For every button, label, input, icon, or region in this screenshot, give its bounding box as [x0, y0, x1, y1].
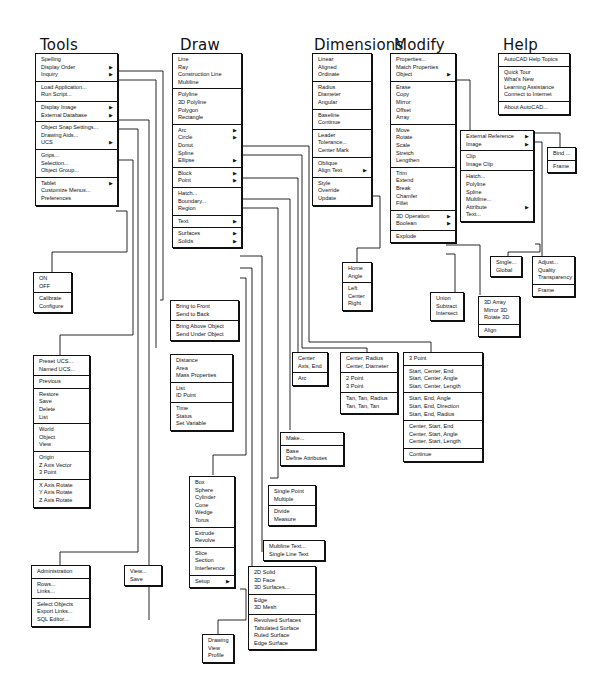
menu-item-set-variable[interactable]: Set Variable	[176, 420, 228, 428]
menu-item-global[interactable]: Global	[496, 267, 517, 275]
menu-item-circle[interactable]: Circle▶	[178, 134, 237, 142]
menu-item-union[interactable]: Union	[436, 295, 459, 303]
menu-item-move[interactable]: Move	[396, 127, 451, 135]
menu-item-explode[interactable]: Explode	[396, 233, 451, 241]
menu-item-revolve[interactable]: Revolve	[195, 537, 230, 545]
menu-item-tan-tan-tan[interactable]: Tan, Tan, Tan	[346, 403, 393, 411]
menu-item-base[interactable]: Base	[286, 448, 339, 456]
menu-item-clip[interactable]: Clip	[466, 153, 529, 161]
menu-item-customize-menus[interactable]: Customize Menus...	[41, 187, 113, 195]
menu-item-section[interactable]: Section	[195, 557, 230, 565]
menu-item-3-point[interactable]: 3 Point	[39, 469, 85, 477]
menu-item-administration[interactable]: Administration	[37, 568, 85, 576]
menu-item-delete[interactable]: Delete	[39, 406, 85, 414]
menu-item-object[interactable]: Object▶	[396, 71, 451, 79]
menu-item-view[interactable]: View...	[130, 568, 157, 576]
menu-item-polygon[interactable]: Polygon	[178, 107, 237, 115]
menu-item-transparency[interactable]: Transparency	[538, 274, 570, 282]
menu-item-time[interactable]: Time	[176, 405, 228, 413]
menu-item-polyline[interactable]: Polyline	[466, 181, 529, 189]
menu-item-block[interactable]: Block▶	[178, 170, 237, 178]
menu-item-diameter[interactable]: Diameter	[318, 91, 367, 99]
menu-item-linear[interactable]: Linear	[318, 56, 367, 64]
menu-item-text[interactable]: Text...	[466, 211, 529, 219]
menu-item-view[interactable]: View	[208, 645, 229, 653]
menu-item-3d-operation[interactable]: 3D Operation▶	[396, 213, 451, 221]
menu-item-radius[interactable]: Radius	[318, 84, 367, 92]
menu-item-left[interactable]: Left	[348, 285, 367, 293]
menu-item-define-attributes[interactable]: Define Attributes	[286, 455, 339, 463]
menu-item-boundary[interactable]: Boundary...	[178, 198, 237, 206]
menu-item-object-group[interactable]: Object Group...	[41, 167, 113, 175]
menu-item-what-s-new[interactable]: What's New	[504, 76, 565, 84]
menu-item-3d-array[interactable]: 3D Array	[484, 299, 515, 307]
menu-item-start-center-length[interactable]: Start, Center, Length	[409, 383, 478, 391]
menu-item-center-radius[interactable]: Center, Radius	[346, 355, 393, 363]
menu-item-z-axis-rotate[interactable]: Z Axis Rotate	[39, 497, 85, 505]
menu-item-configure[interactable]: Configure	[39, 303, 67, 311]
menu-item-rotate[interactable]: Rotate	[396, 134, 451, 142]
menu-item-restore[interactable]: Restore	[39, 391, 85, 399]
menu-item-cone[interactable]: Cone	[195, 502, 230, 510]
menu-item-center[interactable]: Center	[298, 355, 323, 363]
menu-item-ucs[interactable]: UCS▶	[41, 139, 113, 147]
menu-item-3-point[interactable]: 3 Point	[409, 355, 478, 363]
menu-item-center-mark[interactable]: Center Mark	[318, 147, 367, 155]
menu-item-subtract[interactable]: Subtract	[436, 303, 459, 311]
menu-item-scale[interactable]: Scale	[396, 142, 451, 150]
menu-item-erase[interactable]: Erase	[396, 84, 451, 92]
menu-item-continue[interactable]: Continue	[409, 451, 478, 459]
menu-item-tan-tan-radius[interactable]: Tan, Tan, Radius	[346, 395, 393, 403]
menu-item-single-point[interactable]: Single Point	[274, 488, 311, 496]
menu-item-adjust[interactable]: Adjust...	[538, 259, 570, 267]
menu-item-construction-line[interactable]: Construction Line	[178, 71, 237, 79]
menu-item-properties[interactable]: Properties...	[396, 56, 451, 64]
menu-item-polyline[interactable]: Polyline	[178, 91, 237, 99]
menu-item-quick-tour[interactable]: Quick Tour	[504, 69, 565, 77]
menu-item-measure[interactable]: Measure	[274, 516, 311, 524]
menu-item-object[interactable]: Object	[39, 434, 85, 442]
menu-item-arc[interactable]: Arc▶	[178, 127, 237, 135]
menu-item-select-objects[interactable]: Select Objects	[37, 601, 85, 609]
menu-item-external-reference[interactable]: External Reference▶	[466, 133, 529, 141]
menu-item-edge[interactable]: Edge	[254, 597, 311, 605]
menu-item-preset-ucs[interactable]: Preset UCS...	[39, 358, 85, 366]
menu-item-attribute[interactable]: Attribute▶	[466, 204, 529, 212]
menu-item-copy[interactable]: Copy	[396, 91, 451, 99]
tools-menu-header[interactable]: Tools	[40, 36, 78, 54]
menu-item-named-ucs[interactable]: Named UCS...	[39, 366, 85, 374]
menu-item-fillet[interactable]: Fillet	[396, 200, 451, 208]
menu-item-chamfer[interactable]: Chamfer	[396, 193, 451, 201]
menu-item-send-under-object[interactable]: Send Under Object	[176, 331, 234, 339]
menu-item-y-axis-rotate[interactable]: Y Axis Rotate	[39, 489, 85, 497]
menu-item-save[interactable]: Save	[39, 398, 85, 406]
menu-item-on[interactable]: ON	[39, 275, 67, 283]
menu-item-3-point[interactable]: 3 Point	[346, 383, 393, 391]
menu-item-leader[interactable]: Leader	[318, 132, 367, 140]
menu-item-inquiry[interactable]: Inquiry▶	[41, 71, 113, 79]
menu-item-preferences[interactable]: Preferences	[41, 195, 113, 203]
menu-item-intersect[interactable]: Intersect	[436, 310, 459, 318]
menu-item-world[interactable]: World	[39, 426, 85, 434]
menu-item-display-image[interactable]: Display Image▶	[41, 104, 113, 112]
menu-item-line[interactable]: Line	[178, 56, 237, 64]
menu-item-revolved-surfaces[interactable]: Revolved Surfaces	[254, 617, 311, 625]
menu-item-break[interactable]: Break	[396, 185, 451, 193]
menu-item-stretch[interactable]: Stretch	[396, 150, 451, 158]
menu-item-3d-mesh[interactable]: 3D Mesh	[254, 604, 311, 612]
menu-item-quality[interactable]: Quality	[538, 267, 570, 275]
menu-item-save[interactable]: Save	[130, 576, 157, 584]
menu-item-selection[interactable]: Selection...	[41, 160, 113, 168]
menu-item-object-snap-settings[interactable]: Object Snap Settings...	[41, 124, 113, 132]
menu-item-2d-solid[interactable]: 2D Solid	[254, 569, 311, 577]
menu-item-z-axis-vector[interactable]: Z Axis Vector	[39, 462, 85, 470]
menu-item-interference[interactable]: Interference	[195, 565, 230, 573]
menu-item-trim[interactable]: Trim	[396, 170, 451, 178]
menu-item-spline[interactable]: Spline	[466, 189, 529, 197]
menu-item-text[interactable]: Text▶	[178, 218, 237, 226]
menu-item-boolean[interactable]: Boolean▶	[396, 220, 451, 228]
menu-item-rows[interactable]: Rows...	[37, 581, 85, 589]
menu-item-torus[interactable]: Torus	[195, 517, 230, 525]
menu-item-mirror-3d[interactable]: Mirror 3D	[484, 307, 515, 315]
menu-item-start-end-direction[interactable]: Start, End, Direction	[409, 403, 478, 411]
